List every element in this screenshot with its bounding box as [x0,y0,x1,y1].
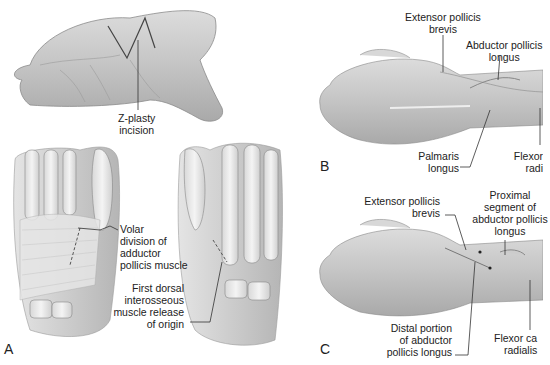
callout-extensor-pollicis-brevis-b: Extensor pollicis brevis [405,11,481,35]
callout-line: longus [466,51,542,63]
callout-line: muscle release [110,306,184,318]
callout-line: Volar [120,223,188,235]
callout-line: radialis [494,344,543,356]
callout-line: adductor [120,247,188,259]
palmar-hand-skeleton [14,147,120,337]
callout-first-dorsal-interosseous: First dorsal interosseous muscle release… [110,282,184,330]
callout-line: interosseous [110,294,184,306]
callout-distal-abductor-pollicis-longus: Distal portion of abductor pollicis long… [370,322,452,358]
callout-line: brevis [405,23,481,35]
callout-line: segment of [470,201,550,213]
callout-line: longus [470,225,550,237]
panel-label-b: B [320,158,329,174]
callout-line: of origin [110,318,184,330]
panel-label-a: A [4,341,13,357]
callout-line: Flexor ca [494,332,543,344]
callout-line: Flexor [510,150,543,162]
callout-volar-division: Volar division of adductor pollicis musc… [120,223,188,271]
callout-abductor-pollicis-longus-b: Abductor pollicis longus [466,39,542,63]
callout-extensor-pollicis-brevis-c: Extensor pollicis brevis [358,195,440,219]
callout-line: Palmaris [405,150,459,162]
callout-proximal-abductor-pollicis-longus: Proximal segment of abductor pollicis lo… [470,189,550,237]
callout-flexor-carpi-radialis-c: Flexor ca radialis [494,332,543,356]
panel-label-c: C [320,341,330,357]
callout-line: pollicis longus [370,346,452,358]
callout-line: Extensor pollicis [405,11,481,23]
dorsal-hand-skeleton [178,143,282,345]
callout-line: abductor pollicis [470,213,550,225]
callout-z-plasty-incision: Z-plasty incision [118,112,155,136]
callout-line: Abductor pollicis [466,39,542,51]
callout-line: pollicis muscle [120,259,188,271]
callout-flexor-carpi-radialis-b: Flexor radi [510,150,543,174]
callout-line: longus [405,162,459,174]
callout-line: Z-plasty [118,112,155,124]
callout-line: Distal portion [370,322,452,334]
callout-palmaris-longus: Palmaris longus [405,150,459,174]
callout-line: Proximal [470,189,550,201]
callout-line: Extensor pollicis [358,195,440,207]
callout-line: radi [510,162,543,174]
callout-line: brevis [358,207,440,219]
callout-line: of abductor [370,334,452,346]
callout-line: incision [118,124,155,136]
hand-top-view [14,11,222,122]
callout-line: First dorsal [110,282,184,294]
callout-line: division of [120,235,188,247]
